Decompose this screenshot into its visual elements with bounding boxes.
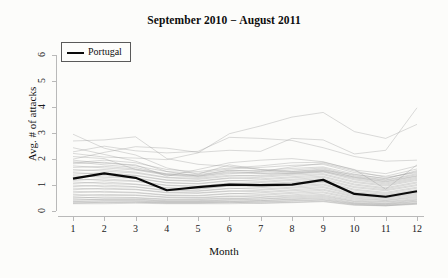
x-tick-mark [323,217,324,221]
y-tick-label: 4 [36,100,47,114]
y-tick-label: 2 [36,152,47,166]
x-tick-label: 6 [219,223,239,234]
x-tick-mark [354,217,355,221]
x-tick-label: 11 [376,223,396,234]
x-tick-label: 3 [126,223,146,234]
x-tick-mark [73,217,74,221]
y-tick-mark [52,185,56,186]
x-axis-title: Month [0,245,448,257]
y-tick-label: 1 [36,178,47,192]
x-axis-line [58,216,424,217]
x-tick-label: 2 [94,223,114,234]
y-tick-mark [52,211,56,212]
series-line [73,134,417,178]
x-tick-label: 5 [188,223,208,234]
y-tick-mark [52,107,56,108]
x-tick-mark [136,217,137,221]
legend-line-swatch-portugal [67,52,84,54]
x-tick-label: 7 [251,223,271,234]
y-tick-mark [52,133,56,134]
x-tick-mark [104,217,105,221]
x-tick-mark [292,217,293,221]
y-tick-label: 6 [36,48,47,62]
x-tick-mark [417,217,418,221]
legend: Portugal [61,42,131,62]
x-tick-label: 10 [344,223,364,234]
x-tick-mark [386,217,387,221]
x-tick-label: 1 [63,223,83,234]
chart-figure: September 2010 − August 2011 Avg. # of a… [0,0,448,278]
legend-label-portugal: Portugal [88,46,122,57]
plot-area [58,45,424,211]
x-tick-mark [229,217,230,221]
x-tick-mark [167,217,168,221]
x-tick-mark [198,217,199,221]
y-tick-mark [52,159,56,160]
y-tick-label: 0 [36,204,47,218]
y-tick-label: 3 [36,126,47,140]
y-tick-mark [52,55,56,56]
chart-title: September 2010 − August 2011 [0,14,448,26]
x-tick-mark [261,217,262,221]
y-tick-label: 5 [36,74,47,88]
series-line [73,108,417,159]
y-tick-mark [52,81,56,82]
x-tick-label: 4 [157,223,177,234]
series-lines [58,45,424,211]
y-axis-line [56,55,57,211]
x-tick-label: 9 [313,223,333,234]
x-tick-label: 8 [282,223,302,234]
x-tick-label: 12 [407,223,427,234]
